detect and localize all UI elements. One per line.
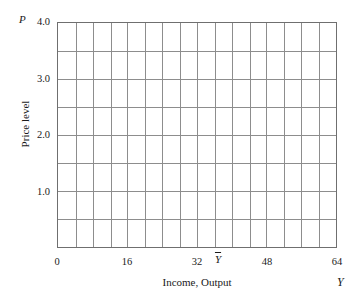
y-bar-marker-label: Y xyxy=(215,253,221,265)
x-tick-label-64: 64 xyxy=(317,256,354,267)
x-axis-symbol: Y xyxy=(337,276,344,289)
y-axis-title: Price level xyxy=(19,84,31,164)
economics-grid-figure: P 4.0 3.0 2.0 1.0 Price level 0 16 32 48… xyxy=(0,0,354,308)
y-bar-marker: Y xyxy=(206,254,230,265)
gridlines xyxy=(58,23,336,247)
plot-area xyxy=(57,22,337,248)
x-axis-title: Income, Output xyxy=(57,276,337,289)
x-tick-label-16: 16 xyxy=(107,256,147,267)
x-tick-label-0: 0 xyxy=(37,256,77,267)
y-tick-label-1: 1.0 xyxy=(16,186,50,197)
y-tick-label-3: 3.0 xyxy=(16,73,50,84)
x-tick-label-48: 48 xyxy=(247,256,287,267)
y-tick-label-4: 4.0 xyxy=(16,16,50,27)
